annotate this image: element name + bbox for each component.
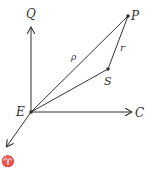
- label-e: E: [15, 105, 25, 119]
- point-s: [106, 67, 110, 71]
- point-p: [126, 14, 130, 18]
- label-rho: ρ: [70, 52, 77, 62]
- label-p: P: [130, 9, 140, 23]
- label-r: r: [120, 42, 126, 53]
- diagram-canvas: Q P S E C ρ r ♈: [0, 0, 152, 181]
- label-c: C: [135, 106, 144, 120]
- edge-e-s: [31, 69, 108, 112]
- label-aries: ♈: [1, 155, 15, 168]
- edge-p-s: [108, 16, 128, 69]
- label-q: Q: [26, 7, 36, 21]
- edge-e-p: [31, 16, 128, 112]
- label-s: S: [104, 75, 112, 88]
- point-e: [29, 110, 33, 114]
